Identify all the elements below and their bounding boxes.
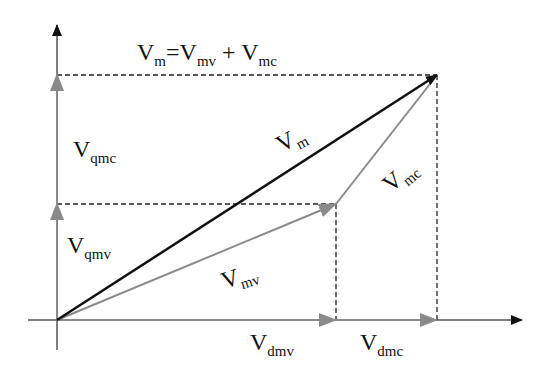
vqmc-label: Vqmc [73, 137, 116, 166]
vmv-vector [57, 204, 336, 320]
vqmv-label: Vqmv [67, 233, 111, 262]
equation-label: Vm=Vmv + Vmc [137, 40, 277, 69]
vdmc-label: Vdmc [360, 330, 403, 359]
vdmv-label: Vdmv [250, 330, 294, 359]
phasor-diagram: Vm=Vmv + Vmc Vqmc Vqmv Vm Vmc Vmv Vdmv V… [0, 0, 544, 367]
